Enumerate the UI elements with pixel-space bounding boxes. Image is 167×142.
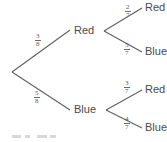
node-level1-red: Red — [74, 25, 94, 36]
artifact-mark — [25, 135, 30, 138]
branch-red-to-blue — [104, 31, 142, 52]
branch-root-to-blue — [12, 72, 70, 110]
branch-root-to-red — [12, 30, 70, 72]
probability-tree-diagram: Red Blue Red Blue Red Blue 3 8 5 8 2 7 5… — [0, 0, 167, 142]
probability-blue-to-red: 3 7 — [124, 80, 130, 96]
leaf-blue-red: Red — [145, 84, 165, 95]
leaf-red-blue: Blue — [145, 46, 167, 57]
leaf-red-red: Red — [145, 2, 165, 13]
fraction-denominator: 7 — [125, 12, 131, 19]
fraction-denominator: 8 — [34, 98, 40, 105]
branch-red-to-red — [104, 8, 142, 31]
probability-root-to-blue: 5 8 — [34, 90, 40, 106]
artifact-mark — [12, 135, 21, 138]
bottom-edge-artifact — [0, 131, 167, 142]
fraction-denominator: 7 — [124, 50, 130, 57]
tree-branches-svg — [0, 0, 167, 142]
artifact-mark — [50, 135, 56, 138]
artifact-mark — [37, 135, 47, 138]
node-level1-blue: Blue — [74, 104, 96, 115]
fraction-denominator: 7 — [124, 88, 130, 95]
probability-red-to-blue: 5 7 — [124, 42, 130, 58]
probability-red-to-red: 2 7 — [125, 4, 131, 20]
probability-blue-to-blue: 4 7 — [124, 116, 130, 132]
probability-root-to-red: 3 8 — [35, 33, 41, 49]
fraction-denominator: 8 — [35, 41, 41, 48]
